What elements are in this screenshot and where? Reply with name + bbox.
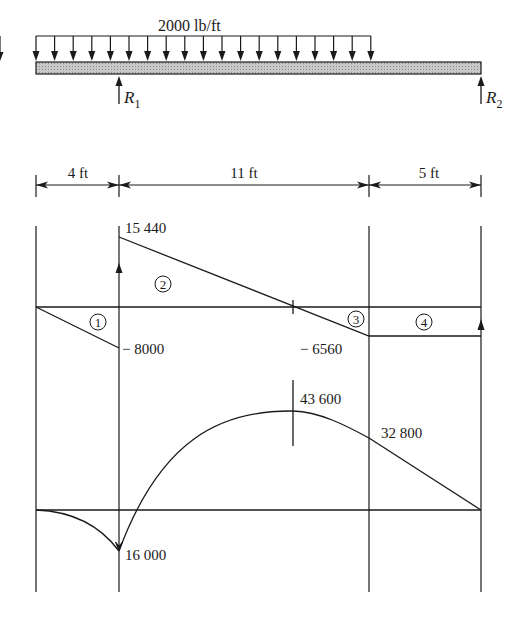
moment-curve-region-2-fall	[293, 411, 369, 438]
moment-value-43600: 43 600	[300, 391, 341, 407]
dim-label-11ft: 11 ft	[230, 165, 258, 181]
beam-diagram: 2000 lb/ft R1 R2 4 ft 11 ft 5 ft	[0, 0, 522, 631]
moment-curve-region-1	[36, 510, 119, 551]
section-lines	[36, 226, 481, 592]
region-marker-2: 2	[155, 276, 171, 292]
svg-text:2: 2	[160, 277, 167, 292]
shear-value-15440: 15 440	[125, 220, 166, 236]
svg-text:3: 3	[353, 312, 360, 327]
moment-value-32800: 32 800	[381, 425, 422, 441]
region-marker-3: 3	[348, 311, 364, 327]
region-marker-4: 4	[416, 314, 432, 330]
load-arrow-set	[33, 36, 375, 61]
load-label: 2000 lb/ft	[158, 17, 221, 34]
region-marker-1: 1	[90, 314, 106, 330]
reaction-r2-label: R2	[485, 88, 502, 111]
shear-diagram	[36, 237, 481, 348]
dimension-line	[36, 175, 481, 197]
moment-value-16000: 16 000	[125, 547, 166, 563]
beam	[36, 62, 481, 74]
svg-text:4: 4	[421, 315, 428, 330]
shear-value-neg8000: − 8000	[122, 341, 164, 357]
reaction-r2-arrow	[478, 76, 485, 104]
shear-jump-arrow-r2	[478, 319, 485, 330]
load-arrows	[0, 36, 4, 61]
moment-diagram	[36, 380, 481, 551]
moment-line-region-4	[369, 438, 481, 510]
svg-text:1: 1	[95, 315, 102, 330]
shear-region-1-line	[36, 307, 119, 348]
dim-label-5ft: 5 ft	[419, 165, 440, 181]
moment-curve-region-2-rise	[119, 411, 293, 551]
dim-label-4ft: 4 ft	[68, 165, 89, 181]
shear-value-neg6560: − 6560	[300, 341, 342, 357]
shear-jump-arrow-r1	[116, 263, 123, 273]
reaction-r1-label: R1	[123, 88, 140, 111]
reaction-r1-arrow	[116, 76, 123, 104]
